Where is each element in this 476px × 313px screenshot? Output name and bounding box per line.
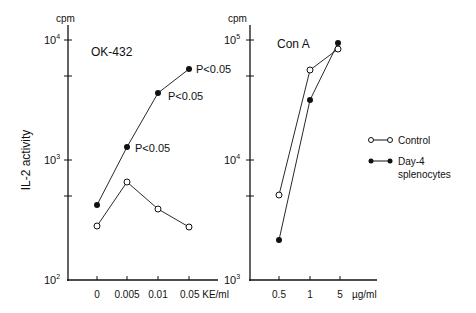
left-ytick-10e2: 102 [44,273,60,286]
right-ytick-10e4: 104 [224,153,240,166]
svg-text:Day-4: Day-4 [398,156,425,167]
pvalue-annotation-0005: P<0.05 [135,142,170,154]
right-ytick-10e5: 105 [224,33,240,46]
left-unit-cpm: cpm [56,13,75,24]
right-xunit: µg/ml [352,289,377,300]
figure: IL-2 activity cpm 104 103 102 0 0.005 0.… [0,0,476,313]
left-xtick-0005: 0.005 [114,289,139,300]
left-ytick-10e4: 104 [44,33,60,46]
left-ytick-10e3: 103 [44,153,60,166]
right-xtick-5: 5 [337,289,343,300]
right-ytick-10e3: 103 [224,273,240,286]
left-xtick-001: 0.01 [148,289,168,300]
legend-item-control: Control [369,135,431,146]
svg-text:splenocytes: splenocytes [398,169,451,180]
legend-item-day4: Day-4 splenocytes [369,156,451,180]
left-xtick-0: 0 [94,289,100,300]
right-panel-cona: cpm 105 104 103 0.5 1 5 µg/ml Con A [224,13,377,300]
pvalue-annotation-005: P<0.05 [196,63,231,75]
y-axis-label: IL-2 activity [19,130,33,191]
left-xtick-005: 0.05 KE/ml [180,289,229,300]
right-xtick-1: 1 [307,289,313,300]
right-unit-cpm: cpm [228,13,247,24]
right-xtick-05: 0.5 [272,289,286,300]
left-panel-title: OK-432 [91,45,133,59]
svg-text:Control: Control [398,135,430,146]
left-panel-okt432: cpm 104 103 102 0 0.005 0.01 0.05 KE/ml … [44,13,231,300]
legend: Control Day-4 splenocytes [369,135,451,180]
right-panel-title: Con A [277,37,310,51]
pvalue-annotation-001: P<0.05 [168,90,203,102]
